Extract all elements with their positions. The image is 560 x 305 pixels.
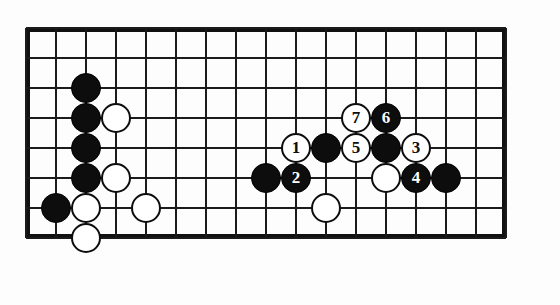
- stone-black-move-4[interactable]: 4: [401, 163, 431, 193]
- stone-black[interactable]: [71, 103, 101, 133]
- stone-white[interactable]: [101, 103, 131, 133]
- stone-black[interactable]: [71, 163, 101, 193]
- stone-white[interactable]: [371, 163, 401, 193]
- stone-move-number: 2: [292, 169, 301, 186]
- stone-white-move-5[interactable]: 5: [341, 133, 371, 163]
- stone-white-move-1[interactable]: 1: [281, 133, 311, 163]
- stone-black[interactable]: [71, 73, 101, 103]
- stone-black[interactable]: [311, 133, 341, 163]
- stone-white[interactable]: [131, 193, 161, 223]
- stone-black-move-6[interactable]: 6: [371, 103, 401, 133]
- stone-move-number: 1: [292, 139, 301, 156]
- stone-black[interactable]: [431, 163, 461, 193]
- stone-move-number: 3: [412, 139, 421, 156]
- stone-move-number: 5: [352, 139, 361, 156]
- stone-black[interactable]: [251, 163, 281, 193]
- stone-black[interactable]: [71, 133, 101, 163]
- grid-line-horizontal: [26, 27, 506, 29]
- grid-line-horizontal: [26, 57, 506, 59]
- stone-black[interactable]: [371, 133, 401, 163]
- stone-move-number: 4: [412, 169, 421, 186]
- stone-white[interactable]: [101, 163, 131, 193]
- stone-black[interactable]: [41, 193, 71, 223]
- go-board[interactable]: 7615324: [26, 28, 506, 238]
- stone-move-number: 7: [352, 109, 361, 126]
- stone-white[interactable]: [311, 193, 341, 223]
- stone-white[interactable]: [71, 193, 101, 223]
- stone-move-number: 6: [382, 109, 391, 126]
- stone-white-move-7[interactable]: 7: [341, 103, 371, 133]
- go-diagram-figure: 7615324: [0, 0, 560, 305]
- stone-white-move-3[interactable]: 3: [401, 133, 431, 163]
- stone-white[interactable]: [71, 223, 101, 253]
- stone-black-move-2[interactable]: 2: [281, 163, 311, 193]
